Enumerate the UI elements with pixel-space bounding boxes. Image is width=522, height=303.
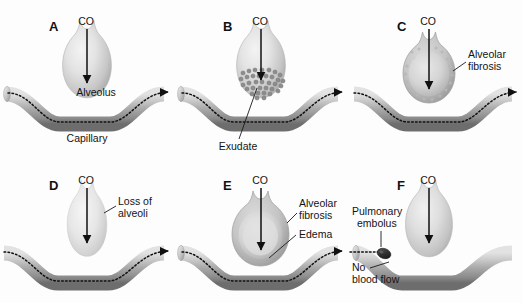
panel-f-embolus-label-line1: Pulmonary: [352, 205, 403, 217]
panel-c: C CO Alveolar fibrosis: [354, 15, 516, 124]
panel-c-fibrosis-label-line1: Alveolar: [468, 48, 506, 60]
figure-container: A CO Alveolus Capillary B: [0, 0, 522, 303]
panel-a: A CO Alveolus Capillary: [4, 15, 168, 144]
panel-c-fibrosis-leader: [453, 62, 466, 71]
panel-e: E CO Alveolar fibrosis Edema: [178, 174, 342, 283]
panel-f-noflow-label-line2: blood flow: [352, 273, 400, 285]
panel-b: B CO Exudate: [178, 15, 342, 152]
panel-f-embolus-label-line2: embolus: [357, 217, 397, 229]
panel-f: F CO Pulmonary embolus No blood flow: [350, 174, 512, 285]
panel-a-capillary-open-end: [4, 86, 11, 101]
panel-e-letter: E: [223, 178, 232, 193]
panel-f-letter: F: [397, 178, 405, 193]
panel-a-alveolus-label: Alveolus: [76, 86, 116, 98]
panel-e-edema-label: Edema: [299, 228, 332, 240]
panel-e-co-label: CO: [252, 174, 268, 186]
panel-f-noflow-label-line1: No: [352, 261, 366, 273]
panel-e-fibrosis-label-line2: fibrosis: [299, 209, 332, 221]
panel-c-fibrosis-label-line2: fibrosis: [468, 60, 501, 72]
panel-a-letter: A: [49, 19, 59, 34]
panel-b-letter: B: [223, 19, 232, 34]
panel-b-capillary-open-end: [178, 86, 185, 101]
panel-c-letter: C: [397, 19, 407, 34]
panel-d-capillary: [4, 253, 164, 283]
panel-b-exudate-label: Exudate: [219, 140, 258, 152]
diagram-canvas: A CO Alveolus Capillary B: [0, 0, 522, 303]
panel-f-co-label: CO: [420, 174, 436, 186]
panel-d-loss-leader: [104, 206, 116, 213]
panel-d-loss-label-line1: Loss of: [118, 195, 152, 207]
panel-e-fibrosis-leader: [287, 213, 297, 223]
panel-d: D CO Loss of alveoli: [4, 174, 168, 283]
panel-e-fibrosis-label-line1: Alveolar: [299, 197, 337, 209]
panel-e-capillary-open-end: [178, 245, 185, 260]
panel-a-capillary-label: Capillary: [67, 132, 109, 144]
panel-a-co-label: CO: [78, 15, 94, 27]
panel-b-co-label: CO: [252, 15, 268, 27]
panel-f-capillary-open-end: [353, 245, 360, 260]
panel-c-co-label: CO: [420, 15, 436, 27]
panel-d-co-label: CO: [78, 174, 94, 186]
panel-d-letter: D: [49, 178, 58, 193]
panel-d-loss-label-line2: alveoli: [118, 207, 148, 219]
